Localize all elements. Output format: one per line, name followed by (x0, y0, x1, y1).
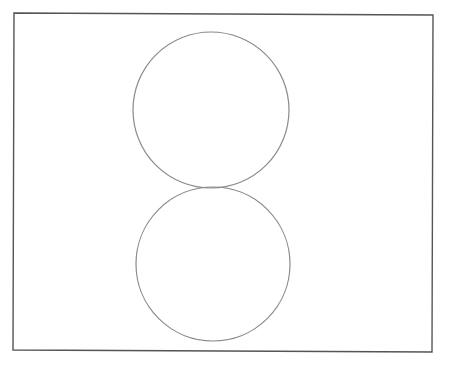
canvas-background (0, 0, 451, 366)
line-drawing-figure (0, 0, 451, 366)
drawing-canvas (0, 0, 451, 366)
